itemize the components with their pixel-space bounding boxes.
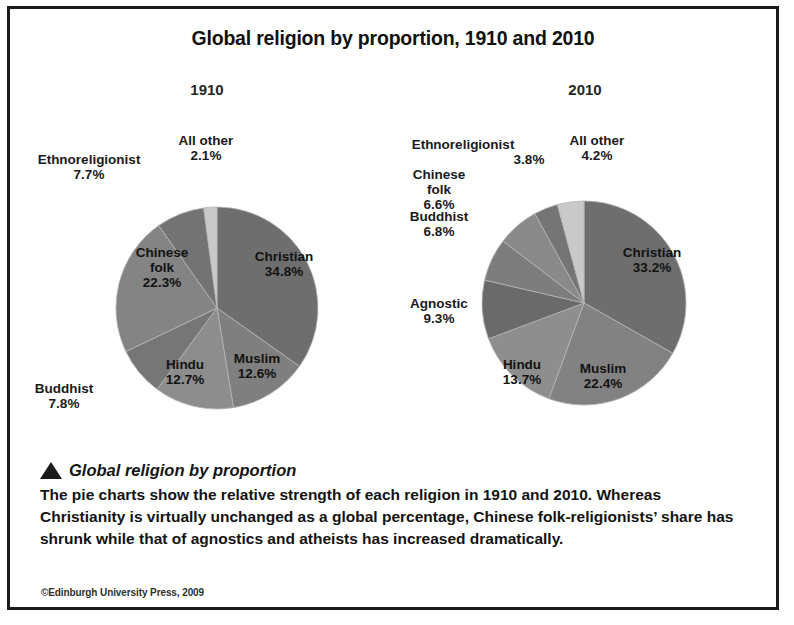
pie-label-1910-ethnoreligionist: Ethnoreligionist 7.7%	[14, 152, 164, 182]
pie-label-2010-muslim-value: 22.4%	[562, 376, 644, 391]
pie-label-2010-chinese-folk: Chinese folk 6.6%	[392, 167, 486, 212]
pie-label-2010-buddhist-name: Buddhist	[410, 209, 469, 224]
pie-label-2010-ethnoreligionist-name: Ethnoreligionist	[412, 137, 515, 152]
pie-label-1910-all-other-value: 2.1%	[158, 148, 254, 163]
pie-label-1910-chinese-folk-name2: folk	[117, 260, 207, 275]
pie-label-1910-christian: Christian 34.8%	[238, 249, 330, 279]
triangle-bullet-icon	[40, 462, 62, 479]
pie-label-2010-chinese-folk-name2: folk	[392, 182, 486, 197]
pie-label-1910-christian-value: 34.8%	[238, 264, 330, 279]
pie-label-1910-buddhist-value: 7.8%	[18, 396, 110, 411]
pie-label-1910-chinese-folk-value: 22.3%	[117, 275, 207, 290]
caption-block: Global religion by proportion The pie ch…	[40, 461, 760, 550]
pie-label-2010-muslim: Muslim 22.4%	[562, 361, 644, 391]
pie-label-2010-all-other-value: 4.2%	[552, 148, 642, 163]
pie-label-1910-christian-name: Christian	[255, 249, 314, 264]
pie-label-1910-muslim: Muslim 12.6%	[218, 351, 296, 381]
pie-label-1910-muslim-name: Muslim	[234, 351, 281, 366]
pie-label-1910-chinese-folk: Chinese folk 22.3%	[117, 245, 207, 290]
pie-label-2010-agnostic-name: Agnostic	[410, 296, 468, 311]
copyright-notice: ©Edinburgh University Press, 2009	[41, 587, 204, 598]
caption-title: Global religion by proportion	[69, 461, 296, 480]
caption-body: The pie charts show the relative strengt…	[40, 484, 750, 550]
pie-label-2010-agnostic-value: 9.3%	[392, 311, 486, 326]
pie-label-1910-hindu-value: 12.7%	[150, 372, 220, 387]
pie-label-1910-buddhist-name: Buddhist	[35, 381, 94, 396]
figure-frame: Global religion by proportion, 1910 and …	[7, 6, 779, 610]
pie-label-1910-chinese-folk-name: Chinese	[136, 245, 189, 260]
pie-label-2010-chinese-folk-name: Chinese	[413, 167, 466, 182]
pie-label-2010-all-other-name: All other	[570, 133, 625, 148]
pie-label-1910-hindu: Hindu 12.7%	[150, 357, 220, 387]
pie-label-2010-christian-value: 33.2%	[606, 260, 698, 275]
pie-label-2010-christian: Christian 33.2%	[606, 245, 698, 275]
pie-label-2010-ethnoreligionist-value: 3.8%	[514, 152, 545, 167]
pie-label-2010-buddhist: Buddhist 6.8%	[392, 209, 486, 239]
pie-label-2010-hindu-name: Hindu	[503, 357, 541, 372]
pie-label-2010-agnostic: Agnostic 9.3%	[392, 296, 486, 326]
pie-label-1910-buddhist: Buddhist 7.8%	[18, 381, 110, 411]
pie-label-1910-muslim-value: 12.6%	[218, 366, 296, 381]
pie-label-2010-buddhist-value: 6.8%	[392, 224, 486, 239]
pie-label-2010-muslim-name: Muslim	[580, 361, 627, 376]
pie-label-2010-all-other: All other 4.2%	[552, 133, 642, 163]
pie-label-2010-christian-name: Christian	[623, 245, 682, 260]
pie-label-1910-ethnoreligionist-value: 7.7%	[14, 167, 164, 182]
pie-label-1910-hindu-name: Hindu	[166, 357, 204, 372]
pie-label-2010-hindu-value: 13.7%	[487, 372, 557, 387]
pie-label-2010-hindu: Hindu 13.7%	[487, 357, 557, 387]
caption-header: Global religion by proportion	[40, 461, 760, 480]
pie-label-2010-ethnoreligionist-value-wrap: 3.8%	[507, 152, 551, 167]
pie-label-2010-ethnoreligionist: Ethnoreligionist	[398, 137, 528, 152]
pie-label-1910-all-other: All other 2.1%	[158, 133, 254, 163]
pie-label-1910-ethnoreligionist-name: Ethnoreligionist	[38, 152, 141, 167]
pie-label-1910-all-other-name: All other	[179, 133, 234, 148]
